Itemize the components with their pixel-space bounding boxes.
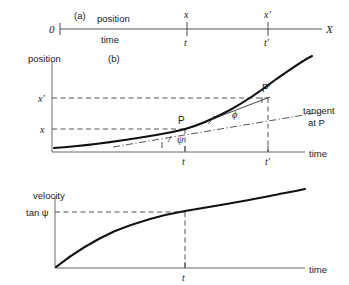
panel-c-label-t: t	[182, 272, 185, 283]
panel-b-angle-psi-label: ψ	[177, 134, 184, 145]
panel-b-tangent-label-line1: tangent	[303, 105, 335, 116]
panel-a-axis-label: X	[325, 23, 334, 35]
panel-a: 0 position time X x t x' t' (a)	[49, 9, 334, 48]
panel-c-y-axis-label: velocity	[33, 190, 65, 201]
panel-a-label-x: x	[183, 9, 189, 20]
panel-b-label-t: t	[182, 156, 185, 167]
panel-c: velocity time tan ψ t	[26, 189, 327, 283]
panel-c-x-axis-label: time	[309, 264, 327, 275]
panel-b: (b) position time	[28, 53, 335, 167]
panel-b-tangent-label-line2: at P	[308, 117, 325, 128]
panel-b-label-tprime: t'	[265, 156, 271, 167]
panel-b-panel-label: (b)	[108, 53, 120, 64]
panel-a-label-xprime: x'	[263, 9, 271, 20]
panel-a-panel-label: (a)	[74, 10, 86, 21]
panel-a-position-label: position	[97, 13, 130, 24]
panel-b-angle-phi-label: ϕ	[232, 109, 238, 120]
panel-b-y-axis-label: position	[28, 53, 61, 64]
panel-b-point-label-p: P	[178, 115, 185, 126]
panel-b-label-xprime: x'	[37, 93, 45, 104]
panel-b-label-x: x	[39, 124, 45, 135]
panel-b-psi-arc	[168, 136, 171, 142]
panel-b-point-label-pprime: P'	[262, 83, 271, 94]
figure-canvas: 0 position time X x t x' t' (a) (b) posi…	[0, 0, 349, 285]
panel-a-label-t: t	[184, 37, 187, 48]
panel-c-velocity-curve	[56, 189, 305, 267]
panel-a-time-label: time	[101, 34, 119, 45]
panel-b-x-axis-label: time	[309, 148, 327, 159]
panel-c-label-tanpsi: tan ψ	[26, 207, 49, 218]
physics-kinematics-figure: 0 position time X x t x' t' (a) (b) posi…	[0, 0, 349, 285]
panel-a-origin-label: 0	[49, 23, 55, 35]
panel-a-label-tprime: t'	[264, 37, 270, 48]
